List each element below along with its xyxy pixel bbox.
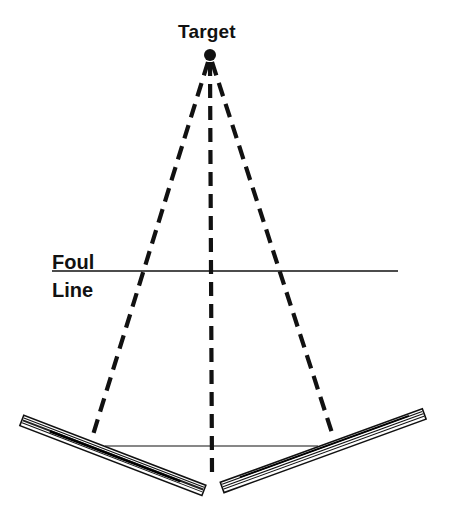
left-board <box>20 415 206 495</box>
foul-label: Foul <box>52 252 94 272</box>
sight-line-right <box>212 62 333 436</box>
target-dot-icon <box>204 49 216 61</box>
target-label: Target <box>178 22 236 41</box>
right-board <box>220 409 426 493</box>
line-label: Line <box>52 280 93 300</box>
sight-line-left <box>92 62 208 438</box>
sight-line-center <box>210 62 212 472</box>
